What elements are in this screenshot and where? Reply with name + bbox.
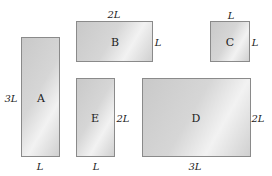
rectangle-a-height-label: 3L	[4, 93, 17, 104]
rectangle-d-height-label: 2L	[251, 113, 264, 124]
rectangles-diagram: A 3L L B 2L L C L L E 2L L D 2L 3L	[0, 0, 272, 176]
rectangle-d-width-label: 3L	[188, 161, 201, 172]
rectangle-c-height-label: L	[252, 37, 259, 48]
rectangle-c-width-label: L	[228, 10, 235, 21]
rectangle-e-name: E	[91, 112, 99, 125]
rectangle-b-height-label: L	[155, 37, 162, 48]
rectangle-d-name: D	[192, 112, 201, 125]
rectangle-b-name: B	[111, 36, 119, 49]
rectangle-e-height-label: 2L	[116, 113, 129, 124]
rectangle-c-name: C	[226, 36, 234, 49]
rectangle-b-width-label: 2L	[107, 9, 120, 20]
rectangle-a-width-label: L	[37, 161, 44, 172]
rectangle-a-name: A	[37, 92, 45, 105]
rectangle-e-width-label: L	[93, 161, 100, 172]
